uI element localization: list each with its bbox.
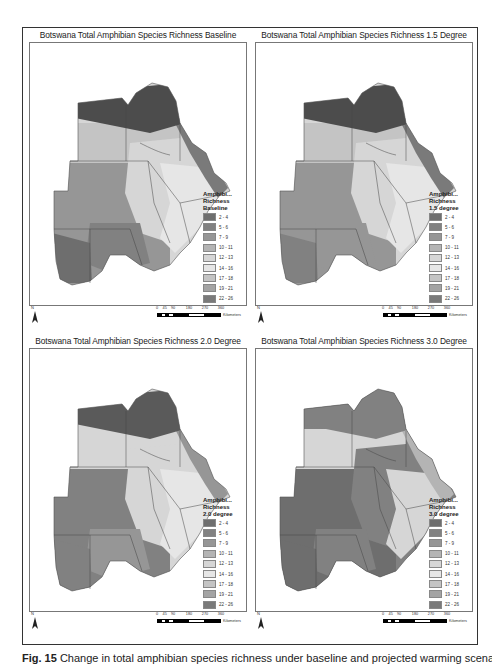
- map-panel-3-0-degree: Botswana Total Amphibian Species Richnes…: [251, 334, 477, 634]
- legend-swatch: [203, 274, 216, 282]
- scale-tick-label: 0: [156, 306, 158, 310]
- legend-title-line: Baseline: [203, 205, 243, 212]
- legend-label: 5 - 6: [445, 531, 454, 536]
- legend-item: 5 - 6: [429, 222, 469, 232]
- legend-item: 2 - 4: [429, 212, 469, 222]
- legend-item: 17 - 18: [203, 273, 243, 283]
- legend-title-line: Richness: [429, 198, 469, 205]
- legend-label: 22 - 26: [445, 602, 459, 607]
- legend-title-line: Amphibi...: [203, 497, 243, 504]
- caption-text: Change in total amphibian species richne…: [60, 652, 492, 664]
- legend-title: Amphibi...Richness1.5 degree: [429, 191, 469, 212]
- legend-label: 22 - 26: [219, 602, 233, 607]
- legend-item: 19 - 21: [203, 283, 243, 293]
- legend-title-line: Richness: [203, 504, 243, 511]
- legend-label: 12 - 13: [445, 255, 459, 260]
- map-panel-1-5-degree: Botswana Total Amphibian Species Richnes…: [251, 28, 477, 328]
- legend-swatch: [429, 284, 442, 292]
- legend-label: 17 - 18: [219, 582, 233, 587]
- legend-swatch: [429, 295, 442, 303]
- legend-title-line: Richness: [429, 504, 469, 511]
- legend-swatch: [429, 274, 442, 282]
- legend-swatch: [429, 244, 442, 252]
- legend-item: 12 - 13: [429, 253, 469, 263]
- legend-title-line: 2.0 degree: [203, 511, 243, 518]
- legend: Amphibi...Richness1.5 degree 2 - 45 - 67…: [429, 191, 469, 306]
- legend-swatch: [429, 560, 442, 568]
- legend-label: 14 - 16: [445, 572, 459, 577]
- legend-label: 17 - 18: [219, 276, 233, 281]
- legend-swatch: [429, 580, 442, 588]
- legend-title: Amphibi...RichnessBaseline: [203, 191, 243, 212]
- legend-swatch: [203, 539, 216, 547]
- scale-tick-label: 270: [202, 612, 208, 616]
- legend-label: 5 - 6: [219, 225, 228, 230]
- legend-label: 19 - 21: [445, 286, 459, 291]
- legend-title-line: 3.0 degree: [429, 511, 469, 518]
- legend-label: 10 - 11: [445, 245, 459, 250]
- scale-tick-label: 180: [186, 612, 192, 616]
- legend-item: 22 - 26: [203, 600, 243, 610]
- legend-item: 17 - 18: [203, 579, 243, 589]
- scale-tick-label: 90: [171, 612, 175, 616]
- map-area: Amphibi...RichnessBaseline 2 - 45 - 67 -…: [29, 42, 247, 306]
- legend-swatch: [203, 284, 216, 292]
- legend-item: 2 - 4: [203, 518, 243, 528]
- legend-label: 12 - 13: [219, 561, 233, 566]
- map-panel-baseline: Botswana Total Amphibian Species Richnes…: [25, 28, 251, 328]
- map-title: Botswana Total Amphibian Species Richnes…: [251, 30, 477, 40]
- map-area: Amphibi...Richness3.0 degree 2 - 45 - 67…: [255, 348, 473, 612]
- legend-label: 7 - 9: [219, 235, 228, 240]
- legend-label: 5 - 6: [445, 225, 454, 230]
- legend: Amphibi...RichnessBaseline 2 - 45 - 67 -…: [203, 191, 243, 306]
- legend-label: 19 - 21: [445, 592, 459, 597]
- legend-item: 14 - 16: [203, 569, 243, 579]
- legend-swatch: [429, 570, 442, 578]
- legend-item: 14 - 16: [429, 263, 469, 273]
- legend: Amphibi...Richness2.0 degree 2 - 45 - 67…: [203, 497, 243, 612]
- north-arrow-icon: N: [256, 613, 266, 631]
- scale-tick-label: 90: [171, 306, 175, 310]
- legend-item: 19 - 21: [429, 283, 469, 293]
- legend-item: 7 - 9: [203, 232, 243, 242]
- legend-label: 14 - 16: [219, 266, 233, 271]
- legend-item: 5 - 6: [429, 528, 469, 538]
- legend-title-line: Amphibi...: [203, 191, 243, 198]
- scale-tick-label: 0: [382, 612, 384, 616]
- scale-tick-label: 270: [428, 306, 434, 310]
- scale-tick-label: 90: [397, 306, 401, 310]
- scale-unit: Kilometers: [223, 313, 241, 317]
- scale-unit: Kilometers: [449, 313, 467, 317]
- legend-label: 2 - 4: [219, 215, 228, 220]
- scale-tick-label: 45: [163, 306, 167, 310]
- legend-swatch: [429, 254, 442, 262]
- legend-swatch: [203, 519, 216, 527]
- legend-title-line: Richness: [203, 198, 243, 205]
- legend-swatch: [203, 590, 216, 598]
- legend-item: 22 - 26: [429, 294, 469, 304]
- legend-label: 19 - 21: [219, 592, 233, 597]
- legend-item: 2 - 4: [429, 518, 469, 528]
- north-label: N: [31, 305, 34, 310]
- legend: Amphibi...Richness3.0 degree 2 - 45 - 67…: [429, 497, 469, 612]
- legend-item: 19 - 21: [203, 589, 243, 599]
- legend-title-line: Amphibi...: [429, 191, 469, 198]
- legend-label: 10 - 11: [219, 551, 233, 556]
- legend-item: 7 - 9: [429, 538, 469, 548]
- legend-label: 2 - 4: [445, 215, 454, 220]
- legend-swatch: [203, 254, 216, 262]
- north-arrow-icon: N: [256, 307, 266, 325]
- legend-label: 22 - 26: [219, 296, 233, 301]
- scale-tick-label: 45: [389, 306, 393, 310]
- scale-tick-label: 270: [202, 306, 208, 310]
- legend-item: 10 - 11: [203, 243, 243, 253]
- scale-bar: 04590180270360 Kilometers: [157, 612, 249, 632]
- legend-swatch: [203, 560, 216, 568]
- legend-swatch: [203, 529, 216, 537]
- scale-tick-label: 45: [163, 612, 167, 616]
- map-title: Botswana Total Amphibian Species Richnes…: [251, 336, 477, 346]
- caption-label: Fig. 15: [22, 652, 57, 664]
- map-title: Botswana Total Amphibian Species Richnes…: [25, 30, 251, 40]
- north-arrow-icon: N: [30, 307, 40, 325]
- legend-item: 12 - 13: [203, 559, 243, 569]
